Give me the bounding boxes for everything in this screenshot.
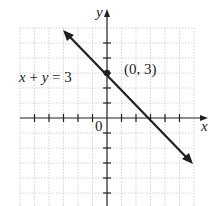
- equation-plus: +: [26, 69, 42, 85]
- origin-label: 0: [95, 119, 103, 134]
- point-marker-icon: [104, 70, 110, 76]
- x-axis: [20, 114, 208, 122]
- y-axis: [103, 9, 111, 206]
- coordinate-plane: [0, 0, 208, 206]
- x-axis-label: x: [201, 119, 208, 134]
- y-axis-label: y: [96, 5, 103, 20]
- equation-label: x + y = 3: [19, 70, 72, 85]
- y-axis-arrow-icon: [104, 9, 110, 17]
- equation-line: [63, 30, 193, 164]
- equation-x: x: [19, 69, 26, 85]
- equation-rhs: = 3: [48, 69, 71, 85]
- point-label: (0, 3): [124, 62, 157, 77]
- graph-figure: . x + y = 3 (0, 3) y x 0: [0, 0, 208, 206]
